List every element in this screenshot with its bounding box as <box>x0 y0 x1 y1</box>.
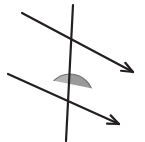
geometry-canvas: Parallel lines cut by a transversal with… <box>0 0 145 142</box>
geometry-figure: Parallel lines cut by a transversal with… <box>0 0 145 142</box>
